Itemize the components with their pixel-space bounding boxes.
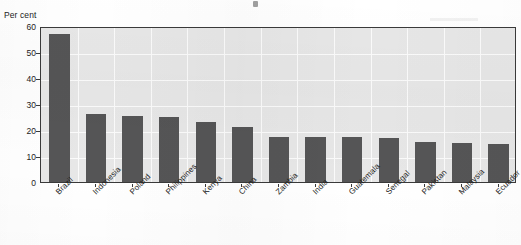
bar <box>86 114 107 182</box>
scan-artifact-mark <box>253 1 258 7</box>
y-tick-mark <box>36 157 41 158</box>
bars-layer <box>41 28 515 182</box>
y-tick-label: 0 <box>10 179 36 187</box>
y-tick-mark <box>36 105 41 106</box>
bar <box>342 137 363 183</box>
y-tick-label: 10 <box>10 153 36 161</box>
bar <box>232 127 253 182</box>
y-tick-label: 50 <box>10 49 36 57</box>
bar <box>196 122 217 182</box>
y-tick-mark <box>36 131 41 132</box>
bar <box>122 116 143 182</box>
scan-smudge <box>430 18 478 21</box>
y-tick-mark <box>36 53 41 54</box>
plot-area <box>40 27 516 183</box>
y-tick-label: 20 <box>10 127 36 135</box>
y-tick-mark <box>36 79 41 80</box>
y-tick-label: 60 <box>10 23 36 31</box>
bar <box>269 137 290 183</box>
bar <box>305 137 326 183</box>
y-tick-label: 30 <box>10 101 36 109</box>
y-tick-label: 40 <box>10 75 36 83</box>
bar-chart: Per cent 0102030405060 BrazilIndonesiaPo… <box>0 0 521 245</box>
y-axis: 0102030405060 <box>0 0 36 245</box>
bar <box>159 117 180 182</box>
bar <box>379 138 400 182</box>
bar <box>49 34 70 182</box>
